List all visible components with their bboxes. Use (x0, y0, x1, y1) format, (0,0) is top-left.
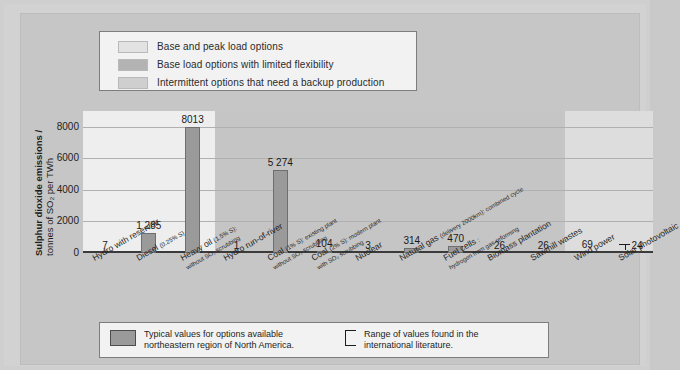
legend-row-base-limited: Base load options with limited flexibili… (118, 56, 416, 73)
swatch-base-limited-icon (118, 59, 148, 71)
y-axis-title-line2: tonnes of SO₂ per TWh (44, 158, 55, 256)
range-values-line1: Range of values found in the (364, 329, 479, 339)
chart-panel: Base and peak load options Base load opt… (20, 13, 640, 365)
range-values-line2: international literature. (364, 340, 453, 350)
gridline-8000 (83, 127, 653, 128)
typical-values-swatch-icon (110, 330, 136, 346)
swatch-intermittent-icon (118, 77, 148, 89)
category-legend: Base and peak load options Base load opt… (99, 31, 417, 91)
y-axis-title: Sulphur dioxide emissions / tonnes of SO… (33, 0, 53, 106)
legend-row-base-peak: Base and peak load options (118, 38, 416, 55)
bar-value-label-4: 5 274 (250, 157, 310, 168)
gridline-6000 (83, 158, 653, 159)
y-tick-label-2000: 2000 (19, 215, 79, 226)
legend-label-base-limited: Base load options with limited flexibili… (157, 59, 334, 70)
y-tick-label-6000: 6000 (19, 152, 79, 163)
swatch-base-peak-icon (118, 41, 148, 53)
bar-4[interactable] (273, 170, 288, 253)
legend-range-values: Range of values found in theinternationa… (345, 329, 479, 351)
values-legend: Typical values for options availablenort… (99, 322, 549, 358)
legend-row-intermittent: Intermittent options that need a backup … (118, 74, 416, 91)
bar-2[interactable] (185, 127, 200, 253)
legend-typical-values: Typical values for options availablenort… (110, 329, 294, 351)
typical-values-line1: Typical values for options available (144, 329, 283, 339)
y-tick-label-0: 0 (19, 247, 79, 258)
typical-values-line2: northeastern region of North America. (144, 340, 294, 350)
legend-label-intermittent: Intermittent options that need a backup … (157, 77, 384, 88)
x-axis-labels: Hydro with reservoirDiesel (0.25% S)Heav… (83, 255, 653, 317)
legend-label-base-peak: Base and peak load options (157, 41, 283, 52)
bar-value-label-2: 8013 (163, 114, 223, 125)
gridline-4000 (83, 190, 653, 191)
range-bracket-icon (345, 330, 356, 346)
y-tick-label-8000: 8000 (19, 121, 79, 132)
y-tick-label-4000: 4000 (19, 184, 79, 195)
